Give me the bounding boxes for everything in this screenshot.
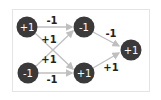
node-label: +1 — [20, 22, 35, 33]
node-input-bottom: -1 — [18, 63, 39, 84]
edge-label: +1 — [103, 62, 118, 73]
node-hidden-top: -1 — [74, 17, 95, 38]
node-label: -1 — [79, 22, 89, 33]
edge-label: -1 — [46, 15, 57, 26]
edge-label: -1 — [46, 74, 57, 85]
node-label: +1 — [124, 45, 139, 56]
node-output: +1 — [121, 40, 142, 61]
edge-label: +1 — [41, 34, 56, 45]
node-label: -1 — [23, 68, 33, 79]
node-label: +1 — [77, 68, 92, 79]
edge-label: +1 — [41, 54, 56, 65]
node-input-top: +1 — [17, 17, 38, 38]
edge-label: -1 — [105, 28, 116, 39]
network-diagram: -1 +1 +1 -1 -1 +1 +1 -1 -1 +1 +1 — [0, 0, 161, 100]
node-hidden-bottom: +1 — [74, 63, 95, 84]
